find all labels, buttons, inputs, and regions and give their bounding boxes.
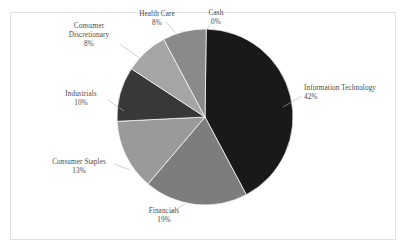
pie-label-percent: 42% [304,93,376,102]
pie-chart: Information Technology 42% Financials 19… [0,0,406,250]
pie-label-name: Information Technology [304,84,376,93]
pie-label-consumer-discretionary: Consumer Discretionary 8% [52,22,126,49]
pie-label-name: Cash [196,9,236,18]
pie-label-cash: Cash 0% [196,9,236,27]
pie-label-financials: Financials 19% [128,207,200,225]
pie-label-name-line1: Consumer [52,22,126,31]
pie-label-name: Consumer Staples [36,158,122,167]
pie-label-percent: 10% [50,99,112,108]
pie-label-percent: 8% [52,40,126,49]
pie-label-percent: 8% [128,19,186,28]
pie-label-percent: 0% [196,18,236,27]
pie-label-name: Financials [128,207,200,216]
pie-slice-group [117,29,293,205]
pie-label-consumer-staples: Consumer Staples 13% [36,158,122,176]
pie-label-industrials: Industrials 10% [50,90,112,108]
pie-label-information-technology: Information Technology 42% [304,84,376,102]
pie-label-percent: 19% [128,216,200,225]
pie-label-health-care: Health Care 8% [128,10,186,28]
pie-label-percent: 13% [36,167,122,176]
pie-label-name-line2: Discretionary [52,31,126,40]
pie-label-name: Industrials [50,90,112,99]
pie-label-name: Health Care [128,10,186,19]
